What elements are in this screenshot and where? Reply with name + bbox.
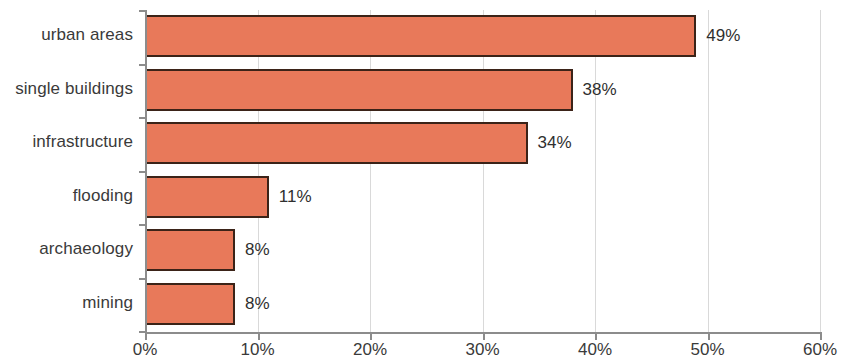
bar-value-label: 49% [706,26,740,46]
category-label: mining [0,293,133,313]
bar-value-label: 38% [583,80,617,100]
bar [145,283,235,325]
bar-value-label: 8% [245,294,270,314]
category-label: urban areas [0,25,133,45]
x-axis-tick [145,332,147,340]
bar-row: 8% [145,229,820,271]
bar-chart: 49%38%34%11%8%8% urban areassingle build… [0,0,844,358]
bar [145,229,235,271]
bar-row: 38% [145,69,820,111]
x-axis-tick [708,332,710,340]
bar [145,122,528,164]
x-axis-tick-label: 30% [438,340,528,358]
x-axis-tick [595,332,597,340]
y-axis-tick [139,224,146,226]
x-axis-tick-label: 60% [775,340,844,358]
plot-area: 49%38%34%11%8%8% [145,10,820,332]
y-axis-tick [139,171,146,173]
x-axis-tick [370,332,372,340]
bar-row: 11% [145,176,820,218]
y-axis-tick [139,278,146,280]
category-label: archaeology [0,239,133,259]
x-axis-tick-label: 0% [100,340,190,358]
bar-value-label: 8% [245,240,270,260]
bar-row: 34% [145,122,820,164]
category-label: flooding [0,186,133,206]
bar-row: 8% [145,283,820,325]
bar-value-label: 11% [279,187,312,207]
x-axis-tick [483,332,485,340]
y-axis-tick [139,10,146,12]
x-axis-tick-label: 50% [663,340,753,358]
gridline [820,10,821,332]
x-axis-tick-label: 40% [550,340,640,358]
x-axis-tick-label: 20% [325,340,415,358]
category-label: infrastructure [0,132,133,152]
category-label: single buildings [0,79,133,99]
bar-value-label: 34% [538,133,572,153]
bar-row: 49% [145,15,820,57]
y-axis-tick [139,64,146,66]
x-axis-tick [820,332,822,340]
bar [145,15,696,57]
bar [145,69,573,111]
y-axis-tick [139,117,146,119]
bar [145,176,269,218]
x-axis-tick [258,332,260,340]
x-axis-tick-label: 10% [213,340,303,358]
